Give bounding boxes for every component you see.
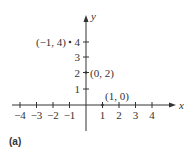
x-tick-label: −4 [14, 109, 26, 121]
x-tick-label: −1 [64, 109, 76, 121]
x-axis-arrow-icon [169, 103, 176, 108]
x-tick-label: −2 [47, 109, 59, 121]
y-tick-label: 2 [75, 67, 81, 79]
x-tick-label: 1 [100, 109, 106, 121]
figure-caption: (a) [9, 136, 21, 147]
x-tick-labels: −4 −3 −2 −1 1 2 3 4 [14, 109, 155, 121]
y-tick-label: 3 [75, 51, 81, 63]
y-tick-label: 1 [75, 83, 81, 95]
point-marker [85, 71, 88, 74]
x-axis-label: x [178, 99, 184, 111]
y-axis-label: y [90, 10, 96, 22]
coordinate-plane: x y −4 −3 −2 −1 1 2 3 4 1 2 3 4 (−1, 4) [0, 0, 193, 160]
point-marker [69, 41, 72, 44]
y-tick-label: 4 [75, 36, 81, 48]
point-label: (−1, 4) [36, 36, 66, 49]
x-tick-label: −3 [31, 109, 43, 121]
point-label: (0, 2) [90, 67, 114, 80]
point-marker [101, 104, 104, 107]
x-tick-label: 4 [149, 109, 155, 121]
y-tick-labels: 1 2 3 4 [75, 36, 81, 95]
point-label: (1, 0) [105, 90, 129, 103]
x-tick-label: 2 [116, 109, 122, 121]
y-axis-arrow-icon [84, 15, 89, 22]
x-tick-label: 3 [133, 109, 139, 121]
